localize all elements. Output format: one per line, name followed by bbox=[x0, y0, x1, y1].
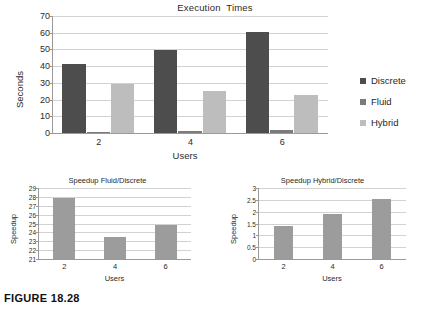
legend-swatch-discrete bbox=[360, 78, 366, 84]
x-tick-label: 4 bbox=[330, 262, 334, 271]
y-tick-label: 0.5 bbox=[247, 244, 256, 251]
legend-item-hybrid[interactable]: Hybrid bbox=[360, 112, 406, 133]
gridline bbox=[53, 116, 328, 117]
y-tick-mark bbox=[50, 16, 53, 17]
legend-label-hybrid: Hybrid bbox=[371, 117, 398, 128]
y-tick-mark bbox=[256, 212, 259, 213]
x-tick-label: 6 bbox=[164, 262, 168, 271]
y-tick-label: 70 bbox=[40, 11, 50, 21]
x-axis-label: Users bbox=[258, 274, 406, 283]
legend: Discrete Fluid Hybrid bbox=[360, 70, 406, 133]
y-tick-mark bbox=[256, 259, 259, 260]
gridline bbox=[53, 33, 328, 34]
bar bbox=[87, 132, 110, 134]
bar bbox=[104, 237, 126, 259]
y-tick-label: 50 bbox=[40, 44, 50, 54]
y-tick-mark bbox=[36, 188, 39, 189]
y-tick-label: 23 bbox=[29, 238, 36, 245]
y-tick-label: 24 bbox=[29, 229, 36, 236]
y-tick-label: 2.5 bbox=[247, 196, 256, 203]
gridline bbox=[53, 83, 328, 84]
bar bbox=[372, 199, 392, 259]
bar bbox=[178, 131, 201, 134]
y-tick-mark bbox=[36, 197, 39, 198]
legend-swatch-fluid bbox=[360, 99, 366, 105]
plot-area: 00.511.522.53246 bbox=[258, 188, 406, 260]
figure-caption: FIGURE 18.28 bbox=[4, 292, 80, 304]
legend-swatch-hybrid bbox=[360, 120, 366, 126]
x-axis-label: Users bbox=[40, 150, 330, 161]
y-axis-label: Speedup bbox=[9, 214, 18, 244]
x-tick-label: 4 bbox=[113, 262, 117, 271]
y-tick-label: 0 bbox=[252, 256, 256, 263]
legend-item-discrete[interactable]: Discrete bbox=[360, 70, 406, 91]
bar bbox=[154, 50, 177, 133]
y-tick-mark bbox=[50, 116, 53, 117]
bar bbox=[274, 226, 294, 259]
legend-label-discrete: Discrete bbox=[371, 75, 406, 86]
y-tick-label: 27 bbox=[29, 202, 36, 209]
y-tick-mark bbox=[256, 235, 259, 236]
x-tick-label: 6 bbox=[379, 262, 383, 271]
y-tick-label: 26 bbox=[29, 211, 36, 218]
y-tick-label: 30 bbox=[40, 78, 50, 88]
x-tick-label: 2 bbox=[62, 262, 66, 271]
y-tick-label: 21 bbox=[29, 256, 36, 263]
y-tick-mark bbox=[256, 247, 259, 248]
y-tick-mark bbox=[36, 224, 39, 225]
y-tick-label: 60 bbox=[40, 28, 50, 38]
bar bbox=[246, 32, 269, 133]
plot-area: 010203040506070246 bbox=[52, 16, 328, 134]
y-tick-label: 2 bbox=[252, 208, 256, 215]
speedup-hybrid-discrete-chart: Speedup Hybrid/Discrete Speedup Users 00… bbox=[215, 172, 430, 287]
bar bbox=[53, 198, 75, 259]
x-tick-label: 6 bbox=[280, 137, 285, 147]
bar bbox=[62, 64, 85, 133]
y-tick-mark bbox=[50, 49, 53, 50]
x-tick-label: 2 bbox=[96, 137, 101, 147]
bar bbox=[323, 214, 343, 259]
gridline bbox=[53, 49, 328, 50]
speedup-fluid-discrete-chart: Speedup Fluid/Discrete Speedup Users 212… bbox=[0, 172, 215, 287]
gridline bbox=[53, 66, 328, 67]
y-tick-label: 28 bbox=[29, 193, 36, 200]
x-axis-label: Users bbox=[38, 274, 191, 283]
y-tick-mark bbox=[50, 83, 53, 84]
y-tick-label: 29 bbox=[29, 185, 36, 192]
y-tick-label: 1 bbox=[252, 232, 256, 239]
y-tick-label: 20 bbox=[40, 95, 50, 105]
gridline bbox=[53, 16, 328, 17]
y-tick-label: 0 bbox=[45, 128, 50, 138]
bar bbox=[294, 95, 317, 133]
x-tick-label: 4 bbox=[188, 137, 193, 147]
y-tick-label: 1.5 bbox=[247, 220, 256, 227]
y-tick-mark bbox=[50, 100, 53, 101]
y-tick-mark bbox=[36, 232, 39, 233]
bar bbox=[203, 91, 226, 133]
y-tick-mark bbox=[36, 215, 39, 216]
y-tick-mark bbox=[256, 200, 259, 201]
y-tick-mark bbox=[50, 66, 53, 67]
y-tick-label: 3 bbox=[252, 185, 256, 192]
y-tick-mark bbox=[36, 206, 39, 207]
x-tick-label: 2 bbox=[281, 262, 285, 271]
bar bbox=[155, 225, 177, 259]
bar bbox=[111, 84, 134, 133]
y-tick-mark bbox=[36, 250, 39, 251]
gridline bbox=[53, 100, 328, 101]
bar bbox=[270, 130, 293, 133]
y-axis-label: Seconds bbox=[14, 71, 25, 108]
y-tick-label: 22 bbox=[29, 247, 36, 254]
y-tick-mark bbox=[36, 259, 39, 260]
legend-item-fluid[interactable]: Fluid bbox=[360, 91, 406, 112]
y-tick-mark bbox=[50, 133, 53, 134]
y-tick-label: 25 bbox=[29, 220, 36, 227]
gridline bbox=[39, 188, 191, 189]
legend-label-fluid: Fluid bbox=[371, 96, 392, 107]
y-tick-mark bbox=[256, 224, 259, 225]
chart-title: Execution Times bbox=[0, 2, 430, 13]
y-tick-mark bbox=[50, 33, 53, 34]
plot-area: 212223242526272829246 bbox=[38, 188, 191, 260]
gridline bbox=[259, 188, 406, 189]
chart-title: Speedup Hybrid/Discrete bbox=[215, 176, 430, 185]
